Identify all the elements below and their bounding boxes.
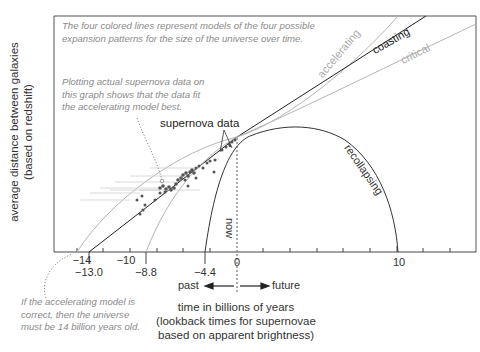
past-label: past <box>178 279 199 291</box>
x-ticks <box>77 246 450 252</box>
y-axis-label-line-1: average distance between galaxies <box>7 37 21 227</box>
x-axis-label-line-3: based on apparent brightness) <box>156 328 316 342</box>
accelerating-line <box>77 16 398 252</box>
mid-note: Plotting actual supernova data on this g… <box>62 76 204 114</box>
y-axis-label-line-2: (based on redshift) <box>21 37 35 227</box>
bottom-note-line-2: correct, then the universe <box>21 309 140 322</box>
bottom-note-line-3: must be 14 billion years old. <box>21 321 140 334</box>
bottom-note: If the accelerating model is correct, th… <box>21 296 140 334</box>
tick-label-minus-13: −13.0 <box>75 266 103 278</box>
mid-note-line-1: Plotting actual supernova data on <box>62 76 204 89</box>
supernova-error-bars <box>80 168 200 200</box>
mid-note-leader <box>137 118 162 180</box>
now-label: now <box>224 218 236 238</box>
mid-note-line-3: the accelerating model best. <box>62 101 204 114</box>
top-note-line-2: expansion patterns for the size of the u… <box>62 33 315 46</box>
x-axis-label-line-2: (lookback times for supernovae <box>156 314 316 328</box>
critical-line <box>146 24 476 252</box>
mid-note-line-2: this graph shows that the data fit <box>62 89 204 102</box>
start-markers <box>89 252 205 264</box>
tick-label-minus-4-4: −4.4 <box>194 266 216 278</box>
x-axis-label: time in billions of years (lookback time… <box>156 300 316 342</box>
tick-label-minus-14: −14 <box>73 254 92 266</box>
top-note-line-1: The four colored lines represent models … <box>62 20 315 33</box>
future-label: future <box>272 279 300 291</box>
tick-label-minus-8-8: −8.8 <box>135 266 157 278</box>
top-note: The four colored lines represent models … <box>62 20 315 45</box>
tick-label-minus-10: −10 <box>117 254 136 266</box>
x-axis-label-line-1: time in billions of years <box>156 300 316 314</box>
tick-label-ten: 10 <box>393 256 405 268</box>
tick-label-zero: 0 <box>234 256 240 268</box>
bottom-note-line-1: If the accelerating model is <box>21 296 140 309</box>
supernova-data-label: supernova data <box>160 117 239 129</box>
bottom-note-leader <box>44 254 72 298</box>
y-axis-label: average distance between galaxies (based… <box>7 37 35 227</box>
